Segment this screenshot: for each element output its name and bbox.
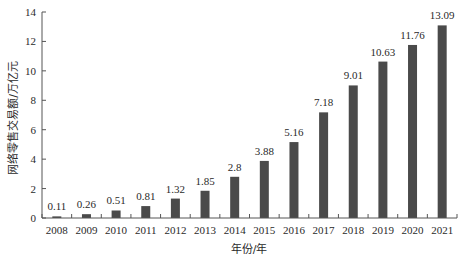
value-label-2013: 1.85 [195,175,215,187]
bar-2019 [378,62,387,218]
bar-2016 [289,142,298,218]
x-tick-label-2018: 2018 [342,224,365,236]
bar-2018 [349,85,358,218]
x-axis-ticks: 2008200920102011201220132014201520162017… [42,214,457,236]
x-tick-label-2015: 2015 [253,224,276,236]
y-tick-label: 8 [31,94,37,106]
value-label-2016: 5.16 [284,126,304,138]
y-tick-label: 4 [31,153,37,165]
bar-2013 [201,191,210,218]
value-label-2018: 9.01 [344,69,363,81]
value-label-2021: 13.09 [430,9,455,21]
value-label-2011: 0.81 [136,190,155,202]
bar-2011 [141,206,150,218]
y-tick-label: 12 [25,35,36,47]
x-tick-label-2014: 2014 [224,224,247,236]
bar-2014 [230,177,239,218]
y-tick-label: 2 [31,183,37,195]
bar-2021 [438,25,447,218]
value-labels: 0.110.260.510.811.321.852.83.885.167.189… [47,9,455,212]
value-label-2015: 3.88 [255,145,275,157]
bar-2015 [260,161,269,218]
value-label-2008: 0.11 [47,200,66,212]
x-tick-label-2013: 2013 [194,224,217,236]
bar-chart: 02468101214 2008200920102011201220132014… [0,0,468,262]
y-tick-label: 10 [25,65,37,77]
value-label-2009: 0.26 [77,198,97,210]
y-tick-label: 0 [31,212,37,224]
x-tick-label-2008: 2008 [46,224,69,236]
x-tick-label-2016: 2016 [283,224,306,236]
y-axis-title: 网络零售交易额/万亿元 [6,61,20,175]
y-tick-label: 14 [25,6,37,18]
value-label-2017: 7.18 [314,96,334,108]
x-tick-label-2020: 2020 [402,224,425,236]
bar-2010 [112,210,121,218]
bar-2020 [408,45,417,218]
bar-2012 [171,199,180,218]
bar-2017 [319,112,328,218]
x-tick-label-2021: 2021 [431,224,453,236]
value-label-2010: 0.51 [106,194,125,206]
value-label-2020: 11.76 [400,29,425,41]
y-axis-ticks: 02468101214 [25,6,46,224]
x-tick-label-2017: 2017 [313,224,336,236]
y-tick-label: 6 [31,124,37,136]
x-tick-label-2011: 2011 [135,224,157,236]
x-tick-label-2019: 2019 [372,224,395,236]
bar-2009 [82,214,91,218]
value-label-2019: 10.63 [371,46,396,58]
value-label-2012: 1.32 [166,183,185,195]
value-label-2014: 2.8 [228,161,242,173]
x-axis-title: 年份/年 [231,242,268,256]
x-tick-label-2012: 2012 [164,224,186,236]
x-tick-label-2009: 2009 [75,224,98,236]
x-tick-label-2010: 2010 [105,224,128,236]
